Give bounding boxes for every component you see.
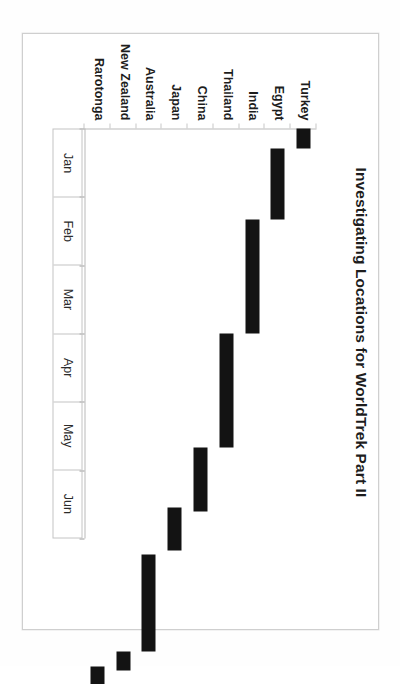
category-axis-tick bbox=[109, 123, 110, 128]
month-tick-apr: Apr bbox=[53, 334, 81, 402]
month-tick-mar: Mar bbox=[53, 265, 81, 333]
bar-series bbox=[84, 128, 316, 538]
gantt-bar-turkey bbox=[296, 128, 310, 148]
category-axis-tick bbox=[186, 123, 187, 128]
category-axis-labels: TurkeyEgyptIndiaThailandChinaJapanAustra… bbox=[84, 52, 316, 124]
category-label-rarotonga: Rarotonga bbox=[84, 58, 110, 121]
category-label-china: China bbox=[187, 85, 213, 120]
gantt-bar-india bbox=[245, 219, 259, 333]
gantt-bar-thailand bbox=[219, 333, 233, 447]
gantt-bar-egypt bbox=[270, 148, 284, 219]
category-axis-tick bbox=[83, 123, 84, 128]
category-label-egypt: Egypt bbox=[264, 85, 290, 120]
chart-title: Investigating Locations for WorldTrek Pa… bbox=[351, 52, 369, 612]
category-axis-tick bbox=[289, 123, 290, 128]
month-tick-jan: Jan bbox=[53, 129, 81, 197]
category-label-thailand: Thailand bbox=[213, 69, 239, 120]
page-sheet: Investigating Locations for WorldTrek Pa… bbox=[22, 33, 379, 630]
category-label-japan: Japan bbox=[161, 84, 187, 120]
category-label-india: India bbox=[239, 91, 265, 120]
gantt-bar-rarotonga bbox=[90, 666, 104, 684]
month-tick-feb: Feb bbox=[53, 197, 81, 265]
category-axis-tick bbox=[315, 123, 316, 128]
category-label-australia: Australia bbox=[136, 67, 162, 121]
rotated-chart-wrapper: Investigating Locations for WorldTrek Pa… bbox=[28, 52, 373, 612]
category-axis-tick bbox=[212, 123, 213, 128]
gantt-bar-australia bbox=[141, 554, 155, 651]
month-tick-jun: Jun bbox=[53, 470, 81, 537]
category-axis-tick bbox=[135, 123, 136, 128]
month-axis-band: JanFebMarAprMayJun bbox=[52, 128, 82, 538]
category-label-turkey: Turkey bbox=[290, 80, 316, 120]
month-tick-may: May bbox=[53, 402, 81, 470]
gantt-bar-new-zealand bbox=[116, 651, 130, 669]
category-label-new-zealand: New Zealand bbox=[110, 44, 136, 120]
gantt-chart: Investigating Locations for WorldTrek Pa… bbox=[28, 52, 373, 612]
gantt-bar-japan bbox=[167, 507, 181, 550]
plot-area bbox=[84, 128, 316, 538]
category-axis-tick bbox=[263, 123, 264, 128]
category-axis-tick bbox=[160, 123, 161, 128]
gantt-bar-china bbox=[193, 447, 207, 511]
category-axis-tick bbox=[238, 123, 239, 128]
